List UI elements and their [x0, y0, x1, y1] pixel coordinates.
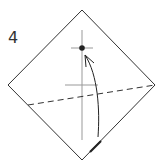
edge-highlight: [90, 141, 101, 152]
arrowhead-icon: [85, 55, 94, 67]
origami-diagram: [0, 0, 159, 168]
valley-fold-line: [28, 85, 155, 105]
fold-arrow: [85, 55, 99, 137]
target-dot: [79, 45, 85, 51]
